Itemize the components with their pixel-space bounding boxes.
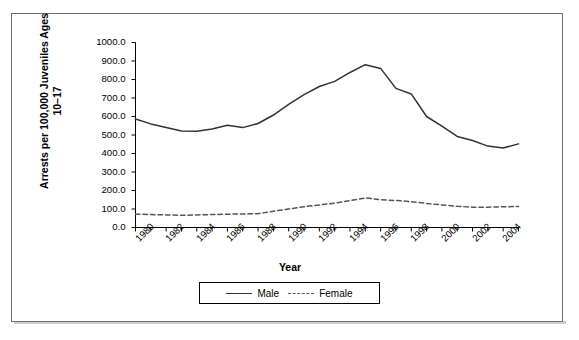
legend-label-female: Female	[319, 288, 352, 299]
x-axis-title: Year	[230, 261, 350, 273]
page-canvas: Arrests per 100,000 Juveniles Ages 10–17…	[0, 0, 579, 340]
y-axis-title: Arrests per 100,000 Juveniles Ages 10–17	[38, 6, 64, 196]
y-axis-tick-label: 800.0	[82, 73, 126, 84]
y-axis-tick-label: 0.0	[82, 221, 126, 232]
y-axis-tick-label: 1000.0	[82, 36, 126, 47]
y-axis-tick-label: 200.0	[82, 184, 126, 195]
legend-entry-male: Male	[226, 288, 279, 299]
series-line-female	[136, 198, 519, 215]
y-axis-tick-label: 900.0	[82, 55, 126, 66]
line-chart: Arrests per 100,000 Juveniles Ages 10–17…	[0, 0, 579, 340]
legend-swatch-solid-icon	[226, 293, 252, 294]
series-line-male	[136, 65, 519, 148]
y-axis-tick-label: 100.0	[82, 203, 126, 214]
chart-legend: Male Female	[199, 282, 380, 304]
y-axis-tick-label: 400.0	[82, 147, 126, 158]
y-axis-tick-label: 300.0	[82, 166, 126, 177]
y-axis-tick-label: 700.0	[82, 92, 126, 103]
legend-swatch-dashed-icon	[288, 293, 314, 294]
y-axis-tick-label: 600.0	[82, 110, 126, 121]
legend-label-male: Male	[257, 288, 279, 299]
y-axis-tick-label: 500.0	[82, 129, 126, 140]
legend-entry-female: Female	[288, 288, 352, 299]
